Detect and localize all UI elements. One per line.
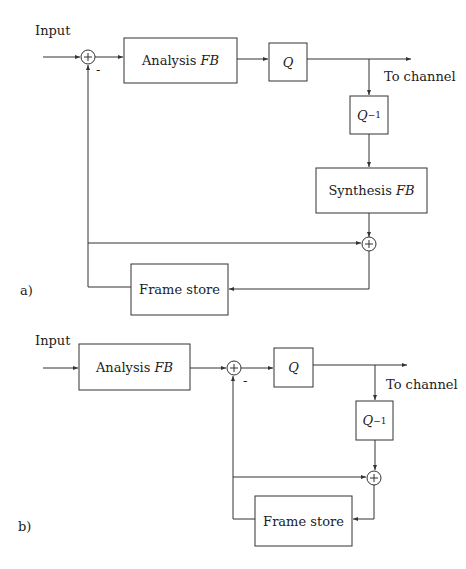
synthesis-fb-label-a: Synthesis FB [316,168,427,213]
input-label-b: Input [35,334,70,347]
inverse-quantizer-label-a: Q−1 [350,96,388,134]
diagram-canvas [0,0,466,569]
part-label-b: b) [18,520,31,533]
to-channel-label-b: To channel [386,378,458,391]
minus-sign-b: - [243,374,247,387]
part-label-a: a) [20,284,33,297]
to-channel-label-a: To channel [384,70,456,83]
minus-sign-a: - [96,63,100,76]
analysis-fb-label-b: Analysis FB [79,344,190,390]
quantizer-label-b: Q [274,348,313,387]
quantizer-label-a: Q [269,43,307,81]
frame-store-label-a: Frame store [131,264,228,315]
inverse-quantizer-label-b: Q−1 [356,401,393,440]
analysis-fb-label-a: Analysis FB [124,38,237,83]
frame-store-label-b: Frame store [255,496,352,546]
input-label-a: Input [35,24,70,37]
